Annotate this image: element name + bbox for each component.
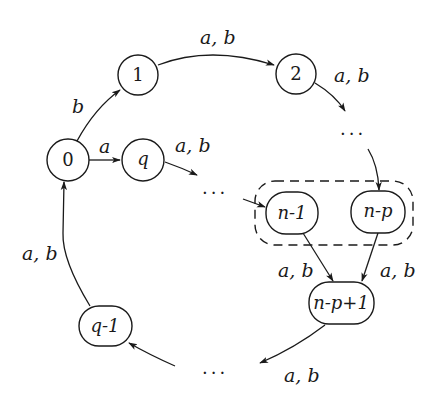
edge-dots-to-n1 — [243, 199, 265, 207]
edge-q-to-dots — [165, 162, 197, 175]
state-q-1[interactable]: q-1 — [79, 306, 132, 346]
state-q-1-label: q-1 — [90, 315, 119, 336]
state-q[interactable]: q — [122, 139, 164, 181]
edge-label-n1-np1: a, b — [278, 259, 314, 281]
state-n-p-label: n-p — [363, 200, 393, 221]
state-n-p-plus-1[interactable]: n-p+1 — [309, 282, 374, 324]
state-q-label: q — [137, 148, 149, 169]
edge-np1-to-dots — [260, 325, 325, 363]
edge-1-to-2 — [158, 55, 274, 65]
edge-label-np-np1: a, b — [380, 259, 416, 281]
edge-label-q-dots: a, b — [175, 134, 211, 156]
automaton-diagram: 0 1 2 q n-1 n-p n-p+1 q-1 ... ... ... b … — [0, 0, 438, 399]
ellipsis-middle: ... — [202, 177, 228, 198]
edge-q1-to-0 — [63, 182, 90, 306]
edge-label-0-q: a — [99, 135, 110, 157]
ellipsis-top-right: ... — [340, 118, 366, 139]
state-2-label: 2 — [290, 63, 301, 84]
edge-2-to-dots — [315, 83, 345, 111]
edge-label-2-dots: a, b — [334, 64, 370, 86]
state-1[interactable]: 1 — [118, 55, 158, 95]
edge-np-to-np1 — [362, 233, 378, 281]
state-2[interactable]: 2 — [276, 54, 316, 94]
edge-label-q1-0: a, b — [22, 242, 58, 264]
state-n-p[interactable]: n-p — [351, 191, 405, 233]
state-n-1-label: n-1 — [277, 202, 306, 223]
edge-label-1-2: a, b — [200, 26, 236, 48]
state-n-p-plus-1-label: n-p+1 — [313, 292, 369, 313]
state-1-label: 1 — [132, 64, 143, 85]
edge-dots-to-np — [368, 149, 379, 190]
ellipsis-bottom: ... — [202, 357, 228, 378]
edge-label-0-1: b — [72, 95, 84, 117]
state-n-1[interactable]: n-1 — [266, 192, 318, 234]
state-0[interactable]: 0 — [47, 139, 89, 181]
state-0-label: 0 — [62, 149, 73, 170]
edge-label-np1-dots: a, b — [284, 364, 320, 386]
edge-dots-to-q1 — [129, 343, 175, 366]
